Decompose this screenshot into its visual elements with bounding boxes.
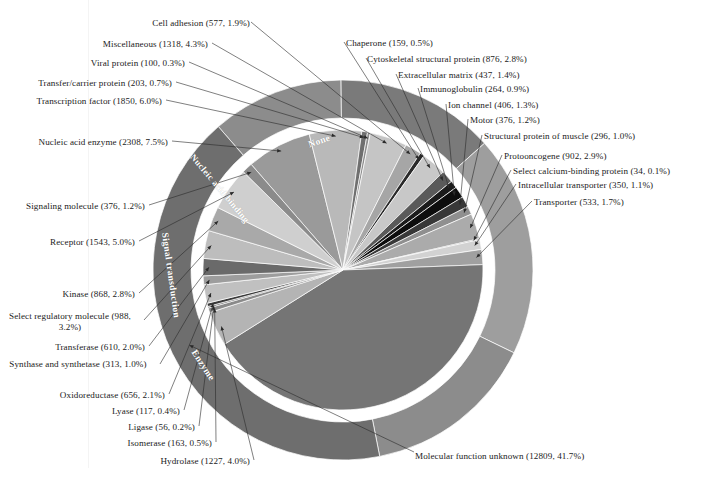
leader-right-9-arrowhead <box>475 241 479 245</box>
callout-molecular-function-unknown: Molecular function unknown (12809, 41.7%… <box>415 451 584 462</box>
leader-left-16-arrowhead <box>221 326 224 330</box>
leader-left-1-arrowhead <box>382 140 386 144</box>
figure-caption <box>0 470 709 480</box>
callout-ligase: Ligase (56, 0.2%) <box>0 422 195 433</box>
leader-left-4-arrowhead <box>331 134 335 138</box>
callout-extracellular-matrix: Extracellular matrix (437, 1.4%) <box>398 70 520 81</box>
pie-chart-figure: None Nucleic acid binding Signal transdu… <box>0 0 709 480</box>
callout-miscellaneous: Miscellaneous (1318, 4.3%) <box>60 39 208 50</box>
callout-select-regulatory-molecule: Select regulatory molecule (988, 3.2%) <box>0 311 140 332</box>
callout-kinase: Kinase (868, 2.8%) <box>0 289 135 300</box>
leader-right-8 <box>474 170 511 240</box>
leader-left-16 <box>221 326 254 460</box>
callout-transfer-carrier-protein: Transfer/carrier protein (203, 0.7%) <box>0 78 172 89</box>
leader-left-7 <box>139 192 234 241</box>
leader-right-4-arrowhead <box>452 191 456 195</box>
callout-select-calcium-binding-protein: Select calcium-binding protein (34, 0.1%… <box>513 166 670 177</box>
leader-left-5 <box>172 141 281 151</box>
callout-cytoskeletal-structural-protein: Cytoskeletal structural protein (876, 2.… <box>367 54 527 65</box>
leader-right-9 <box>475 184 516 246</box>
leader-right-5-arrowhead <box>459 200 463 204</box>
leader-right-5 <box>460 119 468 205</box>
callout-lyase: Lyase (117, 0.4%) <box>0 406 180 417</box>
leader-right-10 <box>476 201 532 258</box>
callout-cell-adhesion: Cell adhesion (577, 1.9%) <box>110 18 250 29</box>
callout-nucleic-acid-enzyme: Nucleic acid enzyme (2308, 7.5%) <box>0 137 168 148</box>
callout-protooncogene: Protooncogene (902, 2.9%) <box>504 151 607 162</box>
leader-left-6-arrowhead <box>247 172 251 175</box>
leader-left-10-arrowhead <box>205 267 209 271</box>
callout-chaperone: Chaperone (159, 0.5%) <box>346 38 433 49</box>
callout-transporter: Transporter (533, 1.7%) <box>534 197 624 208</box>
leader-left-11-arrowhead <box>206 280 210 284</box>
callout-receptor: Receptor (1543, 5.0%) <box>0 237 135 248</box>
leader-left-4 <box>166 100 336 136</box>
callout-ion-channel: Ion channel (406, 1.3%) <box>448 100 538 111</box>
leader-right-6 <box>464 135 482 213</box>
callout-synthase-and-synthetase: Synthase and synthetase (313, 1.0%) <box>0 359 156 370</box>
leader-right-0-arrowhead <box>415 155 419 159</box>
callout-motor: Motor (376, 1.2%) <box>470 115 540 126</box>
leader-left-5-arrowhead <box>277 149 281 153</box>
callout-hydrolase: Hydrolase (1227, 4.0%) <box>0 456 250 467</box>
leader-right-3-arrowhead <box>446 184 449 188</box>
leader-right-6-arrowhead <box>463 209 467 213</box>
leader-right-3 <box>418 88 449 188</box>
leader-left-2 <box>189 62 368 138</box>
callout-transcription-factor: Transcription factor (1850, 6.0%) <box>0 96 162 107</box>
leader-right-1-arrowhead <box>426 164 430 168</box>
callout-signaling-molecule: Signaling molecule (376, 1.2%) <box>0 201 145 212</box>
callout-oxidoreductase: Oxidoreductase (656, 2.1%) <box>0 390 165 401</box>
callout-isomerase: Isomerase (163, 0.5%) <box>0 438 212 449</box>
leader-left-3 <box>176 82 364 138</box>
callout-immunoglobulin: Immunoglobulin (264, 0.9%) <box>420 84 529 95</box>
callout-intracellular-transporter: Intracellular transporter (350, 1.1%) <box>518 180 653 191</box>
callout-transferase: Transferase (610, 2.0%) <box>0 342 145 353</box>
leader-molecular-function-unknown <box>189 345 414 452</box>
callout-viral-protein: Viral protein (100, 0.3%) <box>35 58 185 69</box>
callout-structural-protein-of-muscle: Structural protein of muscle (296, 1.0%) <box>484 131 635 142</box>
